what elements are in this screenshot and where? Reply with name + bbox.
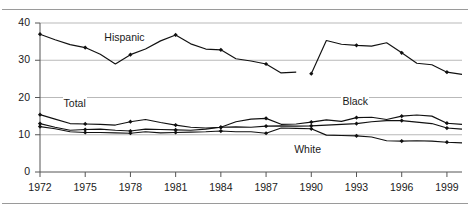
marker-white-1975 [83,130,87,134]
y-axis-label-20: 20 [4,91,30,103]
marker-hispanic-1993 [354,43,358,47]
x-axis-label-1978: 1978 [110,181,150,193]
y-axis-ticks [35,23,40,172]
marker-white-1990 [309,127,313,131]
marker-hispanic-1990 [309,72,313,76]
marker-total-1987 [264,124,268,128]
marker-total-1984 [219,125,223,129]
marker-black-1975 [83,122,87,126]
series-label-black: Black [341,95,369,107]
marker-white-1972 [38,124,42,128]
marker-hispanic-1975 [83,45,87,49]
x-axis-label-1987: 1987 [246,181,286,193]
x-axis-label-1975: 1975 [65,181,105,193]
series-line-hispanic [311,41,462,75]
marker-white-1996 [400,139,404,143]
x-axis-label-1993: 1993 [337,181,377,193]
y-axis-label-40: 40 [4,16,30,28]
marker-black-1999 [445,121,449,125]
figure-container: 010203040 197219751978198119841987199019… [0,0,470,213]
x-axis-label-1972: 1972 [20,181,60,193]
marker-total-1999 [445,126,449,130]
marker-black-1996 [400,114,404,118]
series-label-white: White [293,143,322,155]
marker-hispanic-1972 [38,32,42,36]
x-axis-label-1984: 1984 [201,181,241,193]
data-series-lines [40,34,462,143]
x-axis-ticks [40,172,447,177]
x-axis-label-1990: 1990 [291,181,331,193]
marker-black-1987 [264,116,268,120]
marker-black-1972 [38,113,42,117]
marker-total-1993 [354,121,358,125]
series-line-hispanic [40,34,296,73]
y-axis-label-0: 0 [4,165,30,177]
series-label-total: Total [63,97,87,109]
x-axis-label-1981: 1981 [156,181,196,193]
marker-white-1981 [174,130,178,134]
x-axis-label-1996: 1996 [382,181,422,193]
series-label-hispanic: Hispanic [103,31,145,43]
marker-black-1993 [354,116,358,120]
marker-white-1984 [219,129,223,133]
marker-hispanic-1999 [445,70,449,74]
marker-black-1990 [309,120,313,124]
marker-black-1981 [174,123,178,127]
marker-white-1999 [445,140,449,144]
x-axis-label-1999: 1999 [427,181,467,193]
series-line-total [40,121,462,131]
marker-total-1996 [400,119,404,123]
series-line-black [40,115,462,128]
y-axis-label-10: 10 [4,128,30,140]
marker-black-1978 [128,120,132,124]
y-axis-label-30: 30 [4,53,30,65]
